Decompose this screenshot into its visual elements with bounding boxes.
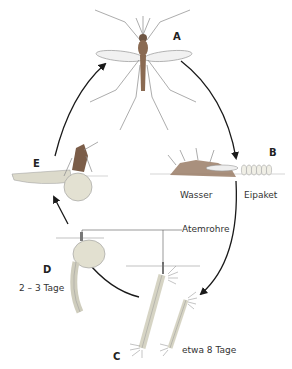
stage-letter-c: C xyxy=(113,352,120,362)
breathing-tubes-label: Atemrohre xyxy=(182,225,230,234)
stage-letter-d: D xyxy=(43,265,51,275)
mosquito-life-cycle-diagram: A B C D E Wasser Eipaket Atemrohre etwa … xyxy=(0,0,292,369)
stage-letter-a: A xyxy=(173,32,181,42)
emerging-adult-illustration xyxy=(12,142,108,201)
larva-duration-label: etwa 8 Tage xyxy=(182,346,236,355)
arrow-d-to-e xyxy=(54,197,68,224)
stage-letter-e: E xyxy=(33,159,40,169)
pupa-illustration xyxy=(56,232,105,312)
egg-packet-label: Eipaket xyxy=(244,191,277,200)
water-label: Wasser xyxy=(180,191,212,200)
arrow-a-to-b xyxy=(181,61,236,158)
adult-mosquito-illustration xyxy=(90,10,196,130)
pupa-duration-label: 2 – 3 Tage xyxy=(19,284,64,293)
egg-laying-illustration xyxy=(150,148,285,177)
stage-letter-b: B xyxy=(269,148,277,158)
larvae-illustration xyxy=(126,262,200,358)
